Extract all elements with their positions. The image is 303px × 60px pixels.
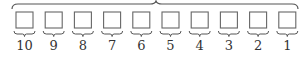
- box-label: 10: [10, 38, 39, 54]
- box: [104, 12, 121, 28]
- box: [250, 12, 267, 28]
- box: [133, 12, 150, 28]
- box: [16, 12, 33, 28]
- box: [74, 12, 91, 28]
- box: [162, 12, 179, 28]
- box: [279, 12, 296, 28]
- box-label: 5: [156, 38, 185, 54]
- box-label: 6: [127, 38, 156, 54]
- underbrace: [277, 31, 298, 37]
- underbrace: [131, 31, 152, 37]
- box-label: 3: [214, 38, 243, 54]
- box-label: 7: [98, 38, 127, 54]
- box-label: 8: [68, 38, 97, 54]
- underbrace: [43, 31, 64, 37]
- underbrace: [218, 31, 239, 37]
- underbrace: [72, 31, 93, 37]
- underbrace: [189, 31, 210, 37]
- box-label: 2: [244, 38, 273, 54]
- box-label: 9: [39, 38, 68, 54]
- box: [191, 12, 208, 28]
- underbrace: [248, 31, 269, 37]
- underbrace: [14, 31, 35, 37]
- box-label: 1: [273, 38, 302, 54]
- box-label: 4: [185, 38, 214, 54]
- box: [45, 12, 62, 28]
- box: [220, 12, 237, 28]
- top-brace: [12, 1, 298, 9]
- underbrace: [160, 31, 181, 37]
- underbrace: [102, 31, 123, 37]
